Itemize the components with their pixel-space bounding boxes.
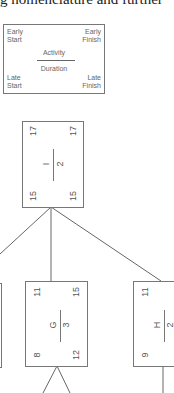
- node-I-ef: 17: [28, 124, 38, 138]
- node-G-duration: 3: [61, 319, 71, 331]
- node-G-activity: G: [48, 319, 58, 331]
- node-H-es: 9: [140, 348, 150, 362]
- node-G-ef: 11: [32, 285, 42, 299]
- node-I: 17 17 I 2 15 15: [22, 121, 84, 208]
- node-I-duration: 2: [55, 158, 65, 170]
- node-H-activity: H: [152, 319, 162, 331]
- node-I-divider: [53, 149, 54, 181]
- node-H-duration: 2: [165, 319, 174, 331]
- node-H-ef: 11: [140, 285, 150, 299]
- node-I-activity: I: [41, 158, 51, 170]
- node-G: 11 15 G 3 8 12: [25, 281, 88, 367]
- node-I-ls: 15: [68, 189, 78, 203]
- node-G-ls: 12: [71, 348, 81, 362]
- node-partial-left: [0, 283, 2, 368]
- node-I-lf: 17: [68, 124, 78, 138]
- node-I-es: 15: [28, 189, 38, 203]
- node-H: 11 H 2 9: [133, 281, 174, 367]
- node-G-lf: 15: [71, 285, 81, 299]
- node-G-es: 8: [32, 348, 42, 362]
